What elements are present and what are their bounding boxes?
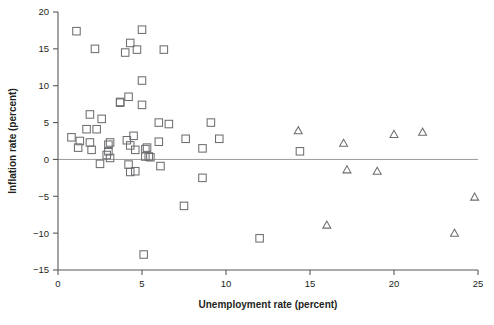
data-point-triangle bbox=[373, 167, 381, 174]
data-point-square bbox=[155, 138, 163, 146]
x-axis-tick-labels: 0510152025 bbox=[55, 278, 483, 289]
data-point-triangle bbox=[343, 166, 351, 173]
x-tick-label: 5 bbox=[139, 278, 144, 289]
data-point-square bbox=[83, 125, 91, 133]
data-point-square bbox=[182, 135, 190, 143]
data-point-square bbox=[207, 119, 215, 127]
data-point-square bbox=[256, 235, 264, 243]
data-point-triangle bbox=[323, 221, 331, 228]
x-tick-label: 20 bbox=[389, 278, 400, 289]
data-point-square bbox=[121, 49, 129, 57]
data-point-square bbox=[180, 202, 188, 210]
y-axis-tick-labels: −15−10−505101520 bbox=[33, 6, 49, 275]
x-axis-title: Unemployment rate (percent) bbox=[199, 299, 338, 310]
y-tick-label: 5 bbox=[44, 117, 49, 128]
data-point-square bbox=[199, 145, 207, 153]
data-point-square bbox=[132, 146, 140, 154]
y-tick-label: 0 bbox=[44, 154, 49, 165]
data-point-square bbox=[96, 160, 104, 168]
data-point-square bbox=[199, 174, 207, 182]
y-tick-label: 10 bbox=[38, 80, 49, 91]
data-point-square bbox=[140, 251, 148, 259]
data-point-triangle bbox=[419, 128, 427, 135]
y-tick-label: −5 bbox=[38, 191, 49, 202]
data-point-square bbox=[138, 26, 146, 34]
data-point-square bbox=[68, 134, 76, 142]
y-tick-label: −15 bbox=[33, 264, 49, 275]
data-point-square bbox=[296, 148, 304, 156]
data-markers bbox=[68, 26, 479, 258]
x-tick-label: 0 bbox=[55, 278, 60, 289]
y-tick-label: 20 bbox=[38, 6, 49, 17]
data-point-triangle bbox=[294, 127, 302, 134]
data-point-square bbox=[86, 139, 94, 147]
x-tick-label: 10 bbox=[221, 278, 232, 289]
y-axis-title: Inflation rate (percent) bbox=[7, 88, 18, 194]
data-point-triangle bbox=[340, 139, 348, 146]
data-point-square bbox=[98, 115, 106, 123]
data-point-square bbox=[138, 77, 146, 85]
x-tick-label: 25 bbox=[473, 278, 484, 289]
data-point-triangle bbox=[450, 229, 458, 236]
y-tick-label: 15 bbox=[38, 43, 49, 54]
data-point-square bbox=[93, 125, 101, 133]
data-point-square bbox=[165, 120, 173, 128]
data-point-square bbox=[138, 101, 146, 109]
data-point-triangle bbox=[390, 130, 398, 137]
data-point-square bbox=[86, 111, 94, 119]
data-point-square bbox=[155, 119, 163, 127]
data-point-square bbox=[216, 135, 224, 143]
data-point-square bbox=[88, 146, 96, 154]
scatter-plot-figure: −15−10−505101520 0510152025 Unemployment… bbox=[0, 0, 494, 325]
data-point-square bbox=[91, 45, 99, 53]
data-point-square bbox=[73, 27, 81, 35]
data-point-square bbox=[125, 93, 133, 101]
data-point-triangle bbox=[471, 193, 479, 200]
y-tick-label: −10 bbox=[33, 228, 49, 239]
x-tick-label: 15 bbox=[305, 278, 316, 289]
x-axis bbox=[58, 270, 478, 275]
data-point-square bbox=[157, 162, 165, 170]
plot-canvas: −15−10−505101520 0510152025 Unemployment… bbox=[0, 0, 494, 325]
data-point-square bbox=[106, 139, 114, 147]
y-axis bbox=[53, 12, 58, 270]
data-point-square bbox=[160, 46, 168, 54]
